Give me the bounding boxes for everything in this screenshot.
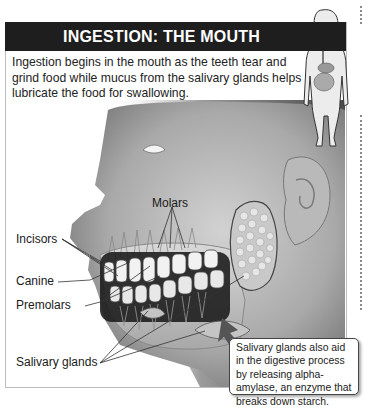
dotted-divider-top [360,6,362,24]
dotted-divider-middle [360,115,362,310]
page-title: INGESTION: THE MOUTH [63,28,260,46]
intro-text: Ingestion begins in the mouth as the tee… [12,55,312,102]
label-incisors: Incisors [16,232,57,246]
label-molars: Molars [152,196,188,210]
label-premolars: Premolars [16,298,71,312]
salivary-callout: Salivary glands also aid in the digestiv… [229,338,359,395]
label-salivary-glands: Salivary glands [16,355,97,369]
title-bar: INGESTION: THE MOUTH [5,22,346,51]
label-canine: Canine [16,274,54,288]
